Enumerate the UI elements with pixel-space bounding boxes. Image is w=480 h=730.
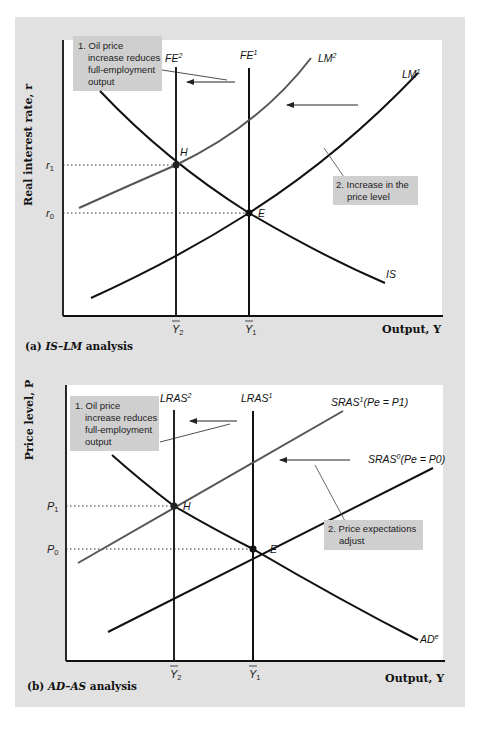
panel-b-ad-as: 1. Oil price increase reduces full-emplo… bbox=[23, 380, 445, 692]
panel-a-is-lm: 1. Oil price increase reduces full-emplo… bbox=[22, 36, 443, 352]
tick-r0: r0 bbox=[46, 207, 54, 221]
label-lras1: LRAS1 bbox=[241, 392, 272, 404]
caption-b: (b) AD–AS analysis bbox=[27, 680, 137, 692]
tick-p0: P0 bbox=[47, 543, 59, 557]
point-h-a bbox=[173, 162, 180, 169]
point-h-b bbox=[171, 503, 178, 510]
label-lras2: LRAS2 bbox=[160, 392, 191, 404]
tick-y1-b: Y1 bbox=[249, 668, 261, 682]
ylabel-b: Price level, P bbox=[23, 380, 36, 460]
xlabel-b: Output, Y bbox=[385, 672, 444, 685]
tick-p1: P1 bbox=[47, 500, 59, 514]
tick-r1: r1 bbox=[46, 159, 54, 173]
label-sras1: SRAS1(Pe = P1) bbox=[331, 396, 408, 408]
label-is: IS bbox=[386, 268, 396, 280]
point-e-a bbox=[246, 210, 253, 217]
label-e-b: E bbox=[270, 543, 278, 555]
tick-y1-a: Y1 bbox=[245, 323, 257, 337]
label-sras0: SRAS0(Pe = P0) bbox=[368, 453, 445, 465]
caption-a: (a) IS–LM analysis bbox=[25, 340, 133, 352]
ylabel-a: Real interest rate, r bbox=[22, 84, 35, 206]
figure-svg: 1. Oil price increase reduces full-emplo… bbox=[0, 0, 480, 730]
label-e-a: E bbox=[258, 207, 266, 219]
label-h-a: H bbox=[180, 146, 188, 158]
label-h-b: H bbox=[183, 500, 191, 512]
tick-y2-a: Y2 bbox=[172, 323, 184, 337]
point-e-b bbox=[250, 546, 257, 553]
xlabel-a: Output, Y bbox=[382, 323, 441, 336]
tick-y2-b: Y2 bbox=[170, 668, 182, 682]
